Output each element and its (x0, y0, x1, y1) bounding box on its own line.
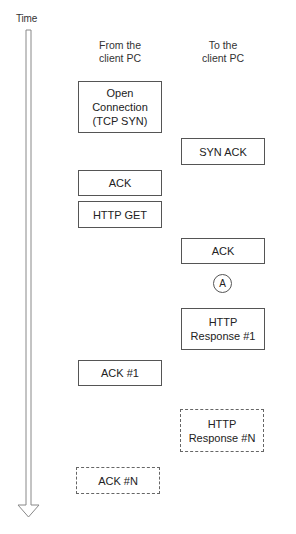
message-label: HTTP Response #1 (191, 315, 256, 343)
message-label: HTTP GET (93, 208, 147, 222)
message-http-response-1: HTTP Response #1 (181, 308, 265, 350)
message-ack-1: ACK #1 (78, 360, 162, 386)
time-arrow-icon (0, 0, 60, 534)
message-label: ACK (212, 244, 235, 258)
marker-label: A (219, 278, 226, 289)
message-label: ACK #N (98, 474, 138, 488)
connector-marker-a: A (213, 274, 232, 293)
message-ack-n: ACK #N (76, 467, 160, 494)
message-label: HTTP Response #N (189, 417, 256, 445)
message-ack: ACK (78, 170, 162, 196)
message-syn-ack: SYN ACK (181, 138, 265, 165)
message-http-get: HTTP GET (78, 201, 162, 228)
message-server-ack: ACK (181, 238, 265, 264)
message-label: ACK (109, 176, 132, 190)
message-open-connection-tcp-syn: Open Connection (TCP SYN) (78, 81, 162, 133)
cut-off-caption (16, 528, 286, 534)
message-label: Open Connection (TCP SYN) (92, 86, 148, 128)
column-header-from-client: From the client PC (78, 39, 162, 65)
column-header-to-client: To the client PC (181, 39, 265, 65)
message-label: SYN ACK (199, 145, 247, 159)
message-label: ACK #1 (101, 366, 139, 380)
message-http-response-n: HTTP Response #N (180, 409, 264, 452)
